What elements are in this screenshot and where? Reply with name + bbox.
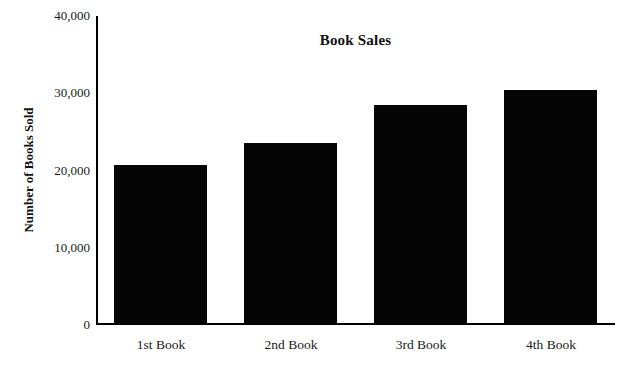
y-tick-label: 30,000 [4, 86, 90, 100]
bar-chart: Book Sales Number of Books Sold 40,000 3… [0, 0, 628, 367]
plot-area [96, 16, 615, 325]
x-axis-tick-labels: 1st Book 2nd Book 3rd Book 4th Book [96, 336, 615, 358]
bar[interactable] [374, 105, 467, 323]
x-tick-label: 2nd Book [226, 336, 356, 354]
x-tick-label: 4th Book [486, 336, 616, 354]
x-tick-label: 3rd Book [356, 336, 486, 354]
x-axis-line [96, 323, 615, 325]
y-tick-label: 20,000 [4, 164, 90, 178]
bar[interactable] [504, 90, 597, 323]
x-tick-label: 1st Book [96, 336, 226, 354]
y-axis-tick-labels: 40,000 30,000 20,000 10,000 0 [0, 0, 90, 367]
y-axis-line [96, 16, 98, 325]
y-tick-label: 10,000 [4, 241, 90, 255]
y-tick-label: 0 [4, 318, 90, 332]
y-tick-label: 40,000 [4, 9, 90, 23]
bar[interactable] [114, 165, 207, 323]
bar[interactable] [244, 143, 337, 323]
